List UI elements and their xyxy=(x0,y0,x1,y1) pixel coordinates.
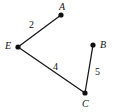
edge-weight-e-c: 4 xyxy=(53,62,58,72)
edge-e-a xyxy=(18,15,61,47)
graph-canvas xyxy=(0,0,118,112)
edge-weight-b-c: 5 xyxy=(95,67,100,77)
node-label-b: B xyxy=(100,40,106,50)
node-c xyxy=(82,90,87,95)
node-label-e: E xyxy=(5,41,11,51)
node-label-c: C xyxy=(82,99,89,109)
edge-e-c xyxy=(18,47,85,93)
graph-figure: 245ABCE xyxy=(0,0,118,112)
edge-weight-e-a: 2 xyxy=(29,20,34,30)
node-label-a: A xyxy=(59,2,65,12)
node-a xyxy=(58,12,63,17)
node-b xyxy=(90,42,95,47)
edge-b-c xyxy=(85,45,93,93)
node-e xyxy=(15,44,20,49)
